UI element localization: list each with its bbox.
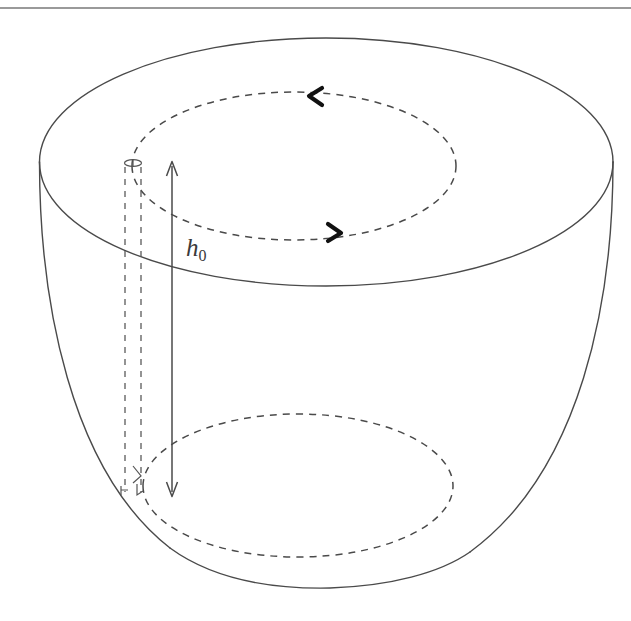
height-label-subscript: 0	[199, 247, 207, 264]
height-label-base: h	[186, 234, 199, 261]
height-label-h0: h0	[186, 234, 207, 265]
guide-bottom-foot-left	[121, 486, 128, 495]
bowl-left-wall	[40, 162, 171, 548]
bowl-bottom-curve	[170, 548, 470, 588]
figure-page: h0	[0, 0, 631, 621]
lower-dashed-ellipse-back	[143, 414, 453, 486]
upper-dashed-ellipse-front	[132, 166, 456, 240]
upper-dashed-ellipse-back	[132, 92, 456, 166]
guide-bottom-foot-right	[137, 484, 143, 495]
bowl-right-wall	[470, 162, 613, 552]
top-flow-chevron-icon	[309, 88, 322, 105]
rim-back-arc	[40, 38, 614, 162]
guide-crossing-mark	[133, 466, 141, 483]
paraboloid-figure	[0, 0, 631, 621]
bottom-flow-chevron-icon	[328, 224, 341, 241]
lower-dashed-ellipse-front	[143, 486, 453, 557]
